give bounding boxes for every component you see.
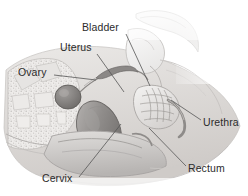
label-ovary: Ovary bbox=[18, 67, 47, 78]
ovary-organ bbox=[55, 85, 81, 109]
label-uterus: Uterus bbox=[60, 42, 92, 53]
label-bladder: Bladder bbox=[82, 22, 119, 33]
fade-bottom bbox=[0, 178, 248, 196]
label-rectum: Rectum bbox=[188, 163, 225, 174]
label-cervix: Cervix bbox=[42, 173, 72, 184]
fade-top bbox=[0, 0, 248, 40]
label-urethra: Urethra bbox=[203, 117, 239, 128]
